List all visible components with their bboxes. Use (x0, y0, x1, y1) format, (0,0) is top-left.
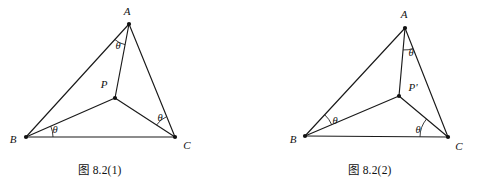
panel-1-segment-PA (115, 24, 129, 98)
panel-1-vertex-dot-A (127, 22, 131, 26)
panel-2-vertex-dot-P (397, 94, 401, 98)
panel-1-caption: 图 8.2(1) (78, 161, 121, 177)
panel-2-angle-at-A-label: θ (408, 48, 413, 59)
panel-1-vertex-label-P: P (101, 79, 108, 90)
panel-2-angle-at-C-arc (420, 119, 427, 137)
panel-2-segment-PA (399, 28, 405, 96)
panel-1-vertex-dot-B (24, 135, 28, 139)
panel-2-group (303, 26, 450, 139)
panel-1-vertex-label-C: C (183, 140, 190, 151)
panel-2-segment-PB (305, 96, 399, 136)
panel-1-vertex-label-A: A (124, 6, 131, 17)
panel-2-side-BC (305, 136, 448, 137)
panel-2-vertex-label-P: P' (408, 82, 417, 93)
panel-1-segment-PC (115, 98, 175, 137)
panel-2-vertex-dot-A (403, 26, 407, 30)
geometry-canvas (0, 0, 477, 185)
panel-1-angle-at-A-label: θ (115, 41, 120, 52)
panel-2-vertex-label-C: C (455, 141, 462, 152)
panel-1-vertex-dot-C (173, 135, 177, 139)
panel-1-angle-at-C-label: θ (157, 113, 162, 124)
panel-2-vertex-dot-B (303, 134, 307, 138)
panel-1-side-CA (129, 24, 175, 137)
panel-2-segment-PC (399, 96, 448, 137)
panel-2-vertex-label-A: A (401, 9, 408, 20)
panel-2-vertex-dot-C (446, 135, 450, 139)
panel-1-segment-PB (26, 98, 115, 137)
panel-1-vertex-label-B: B (10, 134, 17, 145)
panel-2-angle-at-C-label: θ (415, 125, 420, 136)
panel-2-caption: 图 8.2(2) (348, 161, 391, 177)
panel-2-side-AB (305, 28, 405, 136)
panel-2-angle-at-B-arc (325, 115, 332, 125)
figure-board: ABCPθθθ图 8.2(1)ABCP'θθθ图 8.2(2) (0, 0, 477, 185)
panel-2-angle-at-B-label: θ (332, 116, 337, 127)
panel-1-angle-at-B-label: θ (52, 125, 57, 136)
panel-1-side-AB (26, 24, 129, 137)
panel-2-vertex-label-B: B (290, 134, 297, 145)
panel-1-vertex-dot-P (113, 96, 117, 100)
